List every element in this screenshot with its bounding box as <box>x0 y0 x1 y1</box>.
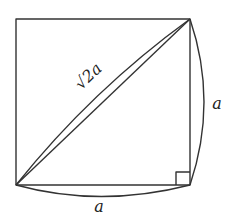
right-side-length-label: a <box>212 94 222 113</box>
right-angle-marker <box>176 172 190 185</box>
curved-arc-right <box>190 19 204 185</box>
straight-diagonal <box>16 19 190 185</box>
bottom-side-length-label: a <box>94 197 104 216</box>
curved-arc-bottom <box>16 185 190 197</box>
diagram-canvas: √2a a a <box>0 0 234 217</box>
diagonal-length-label: √2a <box>71 59 106 93</box>
